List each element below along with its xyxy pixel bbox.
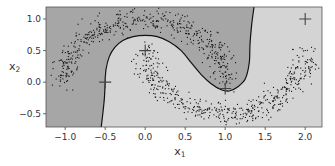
data-point [237,104,238,105]
data-point [225,121,226,122]
data-point [246,113,247,114]
data-point [161,81,162,82]
data-point [142,54,143,55]
data-point [107,32,108,33]
data-point [277,92,278,93]
data-point [292,78,293,79]
data-point [267,99,268,100]
data-point [171,100,172,101]
data-point [239,122,240,123]
data-point [116,14,117,15]
data-point [186,101,187,102]
data-point [164,100,165,101]
data-point [67,80,68,81]
data-point [305,70,306,71]
data-point [277,89,278,90]
data-point [73,51,74,52]
data-point [113,24,114,25]
data-point [107,27,108,28]
data-point [195,115,196,116]
data-point [222,65,223,66]
data-point [62,71,63,72]
data-point [177,23,178,24]
data-point [235,117,236,118]
data-point [162,13,163,14]
data-point [106,30,107,31]
data-point [81,41,82,42]
data-point [153,72,154,73]
data-point [287,75,288,76]
data-point [185,106,186,107]
data-point [282,87,283,88]
data-point [181,98,182,99]
data-point [313,51,314,52]
data-point [83,37,84,38]
data-point [207,109,208,110]
data-point [162,63,163,64]
data-point [74,43,75,44]
data-point [232,113,233,114]
data-point [261,107,262,108]
data-point [187,37,188,38]
data-point [246,109,247,110]
data-point [315,69,316,70]
data-point [97,37,98,38]
data-point [219,44,220,45]
data-point [290,76,291,77]
data-point [198,43,199,44]
data-point [162,87,163,88]
data-point [162,92,163,93]
data-point [179,101,180,102]
data-point [167,21,168,22]
data-point [197,33,198,34]
data-point [209,41,210,42]
data-point [69,53,70,54]
data-point [62,61,63,62]
data-point [138,17,139,18]
data-point [270,92,271,93]
data-point [214,47,215,48]
data-point [221,109,222,110]
data-point [316,64,317,65]
data-point [160,92,161,93]
data-point [225,66,226,67]
data-point [208,43,209,44]
data-point [155,84,156,85]
data-point [307,59,308,60]
data-point [312,66,313,67]
data-point [163,93,164,94]
data-point [153,63,154,64]
data-point [130,11,131,12]
data-point [224,109,225,110]
data-point [158,21,159,22]
data-point [167,25,168,26]
data-point [286,80,287,81]
data-point [210,52,211,53]
data-point [294,77,295,78]
data-point [139,18,140,19]
data-point [134,73,135,74]
data-point [216,110,217,111]
data-point [318,68,319,69]
data-point [278,104,279,105]
data-point [295,89,296,90]
data-point [71,72,72,73]
data-point [188,107,189,108]
data-point [209,115,210,116]
data-point [294,72,295,73]
data-point [230,77,231,78]
x-tick-label: −0.5 [94,132,116,142]
data-point [252,108,253,109]
data-point [287,89,288,90]
data-point [272,107,273,108]
data-point [223,76,224,77]
data-point [247,120,248,121]
data-point [258,116,259,117]
data-point [208,55,209,56]
data-point [284,86,285,87]
data-point [155,58,156,59]
data-point [199,101,200,102]
data-point [219,115,220,116]
data-point [110,26,111,27]
data-point [71,42,72,43]
